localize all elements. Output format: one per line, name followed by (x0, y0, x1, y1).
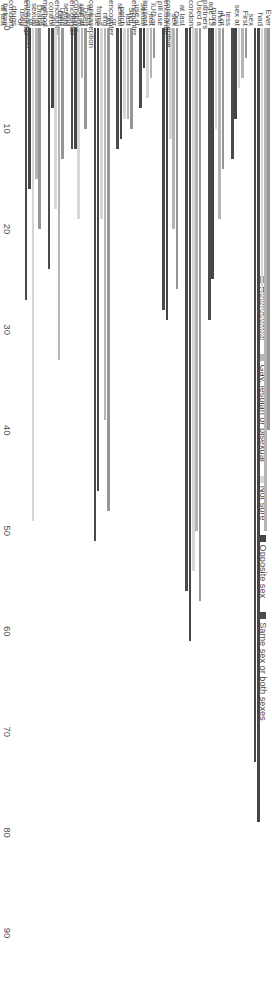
bar (107, 28, 110, 511)
category-label: First sex at lessthan age 13 (226, 0, 249, 26)
bar (38, 28, 41, 229)
category-label: All formscontraceptionuse at last sexual… (89, 0, 112, 26)
bar (218, 28, 221, 219)
bar (211, 28, 214, 279)
category-label: Oral contraceptivepill use lastsexual en… (157, 0, 180, 26)
bar (120, 28, 123, 139)
bar (28, 28, 31, 189)
bar (104, 28, 107, 420)
bar (100, 28, 103, 219)
bar (254, 28, 257, 762)
bar (245, 28, 248, 58)
bar (150, 28, 153, 78)
bar (222, 28, 225, 169)
bar (116, 28, 119, 149)
bar (146, 28, 149, 98)
bar (241, 28, 244, 78)
bar-chart: HeterosexualGay, lesbian or bisexualNot … (0, 0, 272, 997)
bar (127, 28, 130, 119)
category-label: IUD or implantuse at lastsexual encounte… (135, 0, 158, 26)
axis-tick-80: 80 (2, 827, 13, 838)
bar (172, 28, 175, 229)
bar-group: Used a condomat lastsex encounter (180, 0, 203, 997)
bar (264, 28, 267, 531)
category-label: Used condomsand birthcontrol at lastsexu… (66, 0, 89, 26)
value-axis: 0102030405060708090 (0, 0, 20, 997)
bar-group: Shot, patch orring useat last sexualenco… (112, 0, 135, 997)
bar (71, 28, 74, 149)
bar-group: 4 or morepartners (203, 0, 226, 997)
bar (199, 28, 202, 601)
bar-group: First sex at lessthan age 13 (226, 0, 249, 997)
bar (261, 28, 264, 340)
bar (238, 28, 241, 88)
bar (234, 28, 237, 119)
bar (58, 28, 61, 360)
bar (77, 28, 80, 219)
bar-group: Ever had sex (249, 0, 272, 997)
bar (162, 28, 165, 310)
category-label: Used a condomat lastsex encounter (180, 0, 203, 26)
bar (166, 28, 169, 320)
bar-group: IUD or implantuse at lastsexual encounte… (135, 0, 158, 997)
rotated-chart-frame: HeterosexualGay, lesbian or bisexualNot … (0, 0, 272, 997)
bar (74, 28, 77, 149)
axis-tick-50: 50 (2, 525, 13, 536)
bar (185, 28, 188, 591)
category-label: Used no methodof contraceptionorcondom a… (43, 0, 66, 26)
bar (130, 28, 133, 129)
bar (143, 28, 146, 68)
bar (97, 28, 100, 491)
bar-group: Used no methodof contraceptionorcondom a… (43, 0, 66, 997)
bar (189, 28, 192, 641)
axis-tick-0: 0 (2, 25, 13, 30)
axis-tick-10: 10 (2, 123, 13, 134)
bar (32, 28, 35, 521)
axis-tick-40: 40 (2, 425, 13, 436)
bar (231, 28, 234, 159)
bar (35, 28, 38, 179)
bar (215, 28, 218, 129)
bar (257, 28, 260, 822)
bar (123, 28, 126, 119)
bar-group: All formscontraceptionuse at last sexual… (89, 0, 112, 997)
category-label: Drank or used drugsbefore last sexualenc… (20, 0, 43, 26)
axis-tick-30: 30 (2, 324, 13, 335)
bar (48, 28, 51, 269)
bar (81, 28, 84, 78)
category-label: 4 or morepartners (203, 0, 226, 26)
bar-group: Oral contraceptivepill use lastsexual en… (157, 0, 180, 997)
bar (176, 28, 179, 289)
axis-tick-20: 20 (2, 224, 13, 235)
axis-tick-60: 60 (2, 626, 13, 637)
bar (84, 28, 87, 129)
bar (25, 28, 28, 300)
bar-group: Used condomsand birthcontrol at lastsexu… (66, 0, 89, 997)
axis-tick-90: 90 (2, 928, 13, 939)
bar (267, 28, 270, 430)
bar (192, 28, 195, 571)
bar (153, 28, 156, 58)
bar (139, 28, 142, 108)
axis-tick-70: 70 (2, 727, 13, 738)
category-label: Ever had sex (249, 0, 272, 26)
bar (94, 28, 97, 541)
category-label: Shot, patch orring useat last sexualenco… (112, 0, 135, 26)
bar (61, 28, 64, 159)
plot-area: Ever had sexFirst sex at lessthan age 13… (20, 0, 272, 997)
bar (195, 28, 198, 531)
bar-group: Drank or used drugsbefore last sexualenc… (20, 0, 43, 997)
bar (51, 28, 54, 108)
bar (55, 28, 58, 209)
bar (208, 28, 211, 320)
